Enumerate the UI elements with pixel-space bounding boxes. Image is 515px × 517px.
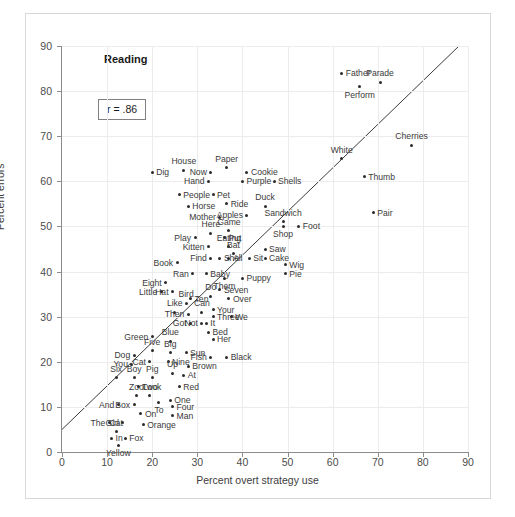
data-point — [212, 193, 215, 196]
data-point-label: At — [188, 371, 196, 380]
y-axis-tick-label: 70 — [0, 131, 52, 141]
data-point-label: Not — [184, 319, 197, 328]
y-axis-tick-label: 30 — [0, 312, 52, 322]
data-point — [207, 331, 210, 334]
data-point-label: Big — [164, 340, 176, 349]
data-point — [151, 349, 154, 352]
data-point — [182, 374, 185, 377]
data-point — [248, 257, 251, 260]
data-point — [139, 412, 142, 415]
data-point — [187, 205, 190, 208]
data-point-label: Game — [217, 218, 240, 227]
data-point-label: Pig — [146, 365, 158, 374]
y-axis-tick — [57, 46, 62, 47]
data-point-label: Ride — [231, 199, 249, 208]
data-point — [410, 144, 413, 147]
data-point-label: Blue — [162, 328, 179, 337]
data-point — [230, 315, 233, 318]
data-point — [205, 272, 208, 275]
data-point — [187, 365, 190, 368]
data-point — [164, 281, 167, 284]
gridline-horizontal — [62, 91, 468, 92]
data-point-label: Sandwich — [264, 209, 301, 218]
data-point — [223, 277, 226, 280]
data-point-label: Pair — [377, 208, 392, 217]
x-axis-tick-label: 30 — [177, 456, 217, 468]
gridline-horizontal — [62, 317, 468, 318]
data-point-label: Pie — [289, 269, 301, 278]
x-axis-tick-label: 0 — [42, 456, 82, 468]
data-point-label: Sit — [253, 254, 263, 263]
gridline-vertical — [423, 46, 424, 452]
data-point — [225, 202, 228, 205]
data-point-label: Man — [177, 411, 194, 420]
data-point-label: Fox — [129, 434, 143, 443]
data-point — [148, 394, 151, 397]
gridline-vertical — [288, 46, 289, 452]
data-point — [340, 157, 343, 160]
data-point-label: Perform — [344, 91, 375, 100]
y-axis-tick-label: 90 — [0, 41, 52, 51]
x-axis-tick-label: 40 — [222, 456, 262, 468]
data-point-label: Yellow — [106, 449, 131, 458]
plot-title: Reading — [104, 53, 147, 65]
data-point-label: Eight — [142, 278, 162, 287]
data-point-label: Ran — [173, 269, 189, 278]
data-point — [207, 180, 210, 183]
data-point-label: Boy — [127, 365, 142, 374]
y-axis-label: Percent errors — [0, 163, 6, 230]
x-axis-tick-label: 60 — [313, 456, 353, 468]
data-point-label: Cat — [109, 419, 122, 428]
data-point — [297, 225, 300, 228]
data-point — [273, 180, 276, 183]
data-point — [178, 385, 181, 388]
data-point-label: Cake — [269, 254, 289, 263]
data-point — [363, 175, 366, 178]
y-axis-tick-label: 40 — [0, 267, 52, 277]
data-point-label: Box — [115, 400, 130, 409]
data-point-label: Purple — [246, 177, 271, 186]
data-point — [185, 302, 188, 305]
data-point-label: Two — [142, 383, 158, 392]
data-point — [241, 277, 244, 280]
data-point-label: Shells — [278, 177, 301, 186]
data-point — [176, 261, 179, 264]
data-point-label: On — [145, 409, 156, 418]
data-point — [169, 399, 172, 402]
data-point-label: Shop — [273, 230, 293, 239]
data-point-label: White — [331, 146, 353, 155]
data-point — [245, 171, 248, 174]
data-point — [171, 414, 174, 417]
data-point-label: Five — [144, 338, 160, 347]
data-point — [117, 444, 120, 447]
data-point — [358, 85, 361, 88]
data-point — [115, 376, 118, 379]
data-point — [124, 437, 127, 440]
data-point — [171, 372, 174, 375]
data-point — [284, 263, 287, 266]
data-point-label: People — [183, 190, 210, 199]
data-point — [200, 311, 203, 314]
data-point — [205, 322, 208, 325]
data-point — [212, 308, 215, 311]
x-axis-tick-label: 90 — [448, 456, 488, 468]
chart-page: Percent errors Percent overt strategy us… — [0, 0, 515, 517]
y-axis-tick-label: 80 — [0, 86, 52, 96]
data-point-label: Here — [202, 220, 221, 229]
data-point-label: Paper — [215, 155, 238, 164]
data-point — [282, 225, 285, 228]
data-point-label: Pet — [217, 190, 230, 199]
data-point-label: Kitten — [183, 242, 205, 251]
data-point-label: Book — [153, 258, 173, 267]
y-axis-tick-label: 20 — [0, 357, 52, 367]
data-point-label: Brown — [192, 362, 216, 371]
y-axis-tick-label: 60 — [0, 176, 52, 186]
data-point-label: Her — [217, 335, 231, 344]
data-point-label: Duck — [255, 193, 275, 202]
data-point — [200, 322, 203, 325]
data-point-label: We — [235, 312, 248, 321]
data-point-label: Horse — [192, 202, 215, 211]
data-point — [171, 290, 174, 293]
data-point — [182, 169, 185, 172]
data-point — [227, 297, 230, 300]
